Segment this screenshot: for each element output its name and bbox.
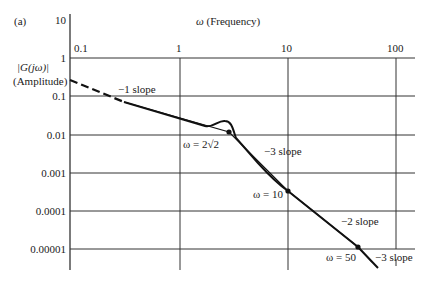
x-tick-10: 10 xyxy=(281,43,292,54)
asymptote-dashed xyxy=(70,80,124,102)
y-tick-0.00001: 0.00001 xyxy=(10,244,66,255)
y-axis-title-line2: (Amplitude) xyxy=(13,76,67,87)
y-tick-10: 10 xyxy=(10,15,66,26)
annotation-minus3-slope-b: −3 slope xyxy=(375,252,413,263)
annotation-minus1-slope: −1 slope xyxy=(118,84,156,95)
y-tick-0.0001: 0.0001 xyxy=(10,206,66,217)
annotation-omega-10: ω = 10 xyxy=(253,189,283,200)
x-axis-title-text: (Frequency) xyxy=(207,15,261,27)
annotation-minus2-slope: −2 slope xyxy=(341,216,379,227)
point-omega-10 xyxy=(285,188,290,193)
y-tick-0.1: 0.1 xyxy=(10,91,66,102)
x-tick-0.1: 0.1 xyxy=(74,43,88,54)
x-axis-title: ω (Frequency) xyxy=(196,16,260,27)
point-omega-2root2 xyxy=(226,129,231,134)
annotation-minus3-slope-a: −3 slope xyxy=(264,146,302,157)
omega-symbol: ω xyxy=(196,15,204,27)
y-axis-title-line1: |G(jω)| xyxy=(17,62,49,73)
annotation-omega-50: ω = 50 xyxy=(326,252,356,263)
bode-amplitude-chart: (a) ω (Frequency) 0.1 1 10 100 10 1 0.1 … xyxy=(0,0,432,283)
y-tick-0.001: 0.001 xyxy=(10,168,66,179)
y-tick-0.01: 0.01 xyxy=(10,130,66,141)
x-tick-1: 1 xyxy=(176,43,182,54)
annotation-omega-2root2: ω = 2√2 xyxy=(183,139,219,150)
x-tick-100: 100 xyxy=(387,43,404,54)
vertical-gridlines xyxy=(180,58,396,270)
point-omega-50 xyxy=(355,244,360,249)
actual-magnitude-curve xyxy=(124,102,378,268)
asymptote-line xyxy=(124,102,372,262)
